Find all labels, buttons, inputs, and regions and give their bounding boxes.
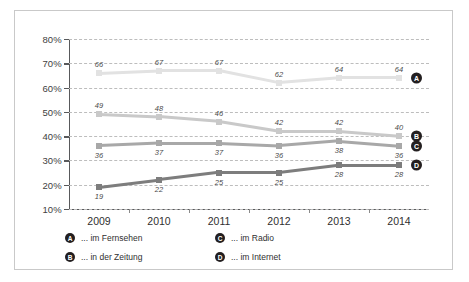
- y-axis-line: [69, 39, 70, 209]
- chart-legend: A... im FernsehenC... im RadioB... in de…: [65, 233, 395, 262]
- data-point: [336, 75, 342, 81]
- y-axis-tick: [64, 39, 69, 40]
- data-point: [156, 68, 162, 74]
- series-line-segment: [219, 120, 279, 133]
- data-point: [396, 133, 402, 139]
- y-axis-tick: [64, 185, 69, 186]
- y-axis-tick: [64, 209, 69, 210]
- x-axis-tick-label: 2013: [327, 215, 350, 227]
- legend-item-a: A... im Fernsehen: [65, 233, 215, 243]
- data-point-label: 22: [155, 184, 163, 193]
- series-line-segment: [219, 142, 279, 147]
- legend-item-b: B... in der Zeitung: [65, 252, 215, 262]
- data-point: [96, 184, 102, 190]
- series-line-segment: [99, 69, 159, 74]
- data-point: [396, 75, 402, 81]
- data-point-label: 67: [155, 57, 163, 66]
- data-point-label: 62: [275, 69, 283, 78]
- legend-badge-icon: D: [215, 252, 225, 262]
- data-point-label: 37: [155, 148, 163, 157]
- series-line-segment: [279, 76, 339, 84]
- x-axis-tick-label: 2014: [387, 215, 410, 227]
- data-point: [276, 80, 282, 86]
- legend-label: ... in der Zeitung: [81, 252, 142, 262]
- series-line-segment: [159, 69, 219, 72]
- x-axis-tick-label: 2009: [87, 215, 110, 227]
- data-point: [336, 128, 342, 134]
- series-line-segment: [279, 139, 339, 147]
- y-axis-tick: [64, 63, 69, 64]
- y-axis-tick: [64, 88, 69, 89]
- series-line-segment: [219, 69, 280, 84]
- series-line-segment: [159, 142, 219, 145]
- legend-label: ... im Radio: [231, 233, 274, 243]
- y-axis-tick: [64, 136, 69, 137]
- data-point: [396, 162, 402, 168]
- data-point-label: 36: [395, 150, 403, 159]
- data-point-label: 66: [95, 60, 103, 69]
- series-line-segment: [159, 115, 219, 123]
- data-point: [276, 170, 282, 176]
- data-point-label: 38: [335, 146, 343, 155]
- data-point: [96, 111, 102, 117]
- x-axis-tick-label: 2011: [208, 215, 231, 227]
- y-axis-tick: [64, 112, 69, 113]
- data-point: [216, 140, 222, 146]
- data-point-label: 46: [215, 108, 223, 117]
- data-point-label: 36: [275, 150, 283, 159]
- x-axis-tick-label: 2012: [267, 215, 290, 227]
- y-axis-tick-label: 40%: [42, 131, 62, 142]
- data-point: [276, 128, 282, 134]
- legend-label: ... im Fernsehen: [81, 233, 142, 243]
- data-point-label: 48: [155, 103, 163, 112]
- data-point-label: 42: [275, 118, 283, 127]
- x-axis-tick: [189, 209, 190, 213]
- data-point: [336, 138, 342, 144]
- series-line-segment: [159, 171, 219, 181]
- y-axis-tick-label: 50%: [42, 106, 62, 117]
- y-axis-tick-label: 20%: [42, 179, 62, 190]
- legend-item-c: C... im Radio: [215, 233, 365, 243]
- data-point-label: 67: [215, 57, 223, 66]
- y-axis-tick-label: 10%: [42, 204, 62, 215]
- series-end-badge-c: C: [411, 140, 422, 151]
- y-axis-tick-label: 60%: [42, 82, 62, 93]
- legend-badge-icon: A: [65, 233, 75, 243]
- data-point-label: 28: [335, 170, 343, 179]
- series-line-segment: [99, 178, 159, 188]
- legend-label: ... im Internet: [231, 252, 281, 262]
- x-axis-tick: [309, 209, 310, 213]
- data-point: [156, 114, 162, 120]
- series-line-segment: [219, 171, 279, 174]
- x-axis-tick: [369, 209, 370, 213]
- data-point: [276, 143, 282, 149]
- data-point-label: 19: [95, 192, 103, 201]
- data-point-label: 49: [95, 101, 103, 110]
- data-point-label: 37: [215, 148, 223, 157]
- y-axis-tick: [64, 160, 69, 161]
- data-point-label: 64: [395, 64, 403, 73]
- legend-badge-icon: B: [65, 252, 75, 262]
- x-axis-tick-label: 2010: [147, 215, 170, 227]
- plot-area: 10%20%30%40%50%60%70%80% 200920102011201…: [69, 39, 429, 209]
- legend-badge-icon: C: [215, 233, 225, 243]
- y-axis-tick-label: 30%: [42, 155, 62, 166]
- data-point-label: 64: [335, 64, 343, 73]
- data-point: [396, 143, 402, 149]
- data-point: [96, 143, 102, 149]
- gridline: [69, 39, 429, 40]
- data-point: [156, 140, 162, 146]
- series-line-segment: [99, 113, 159, 118]
- data-point-label: 25: [215, 177, 223, 186]
- data-point-label: 40: [395, 123, 403, 132]
- data-point: [336, 162, 342, 168]
- y-axis-tick-label: 70%: [42, 58, 62, 69]
- series-line-segment: [99, 142, 159, 147]
- data-point: [216, 170, 222, 176]
- gridline: [69, 88, 429, 89]
- y-axis-tick-label: 80%: [42, 34, 62, 45]
- legend-item-d: D... im Internet: [215, 252, 365, 262]
- data-point: [216, 119, 222, 125]
- chart-frame: 10%20%30%40%50%60%70%80% 200920102011201…: [14, 10, 453, 270]
- x-axis-tick: [129, 209, 130, 213]
